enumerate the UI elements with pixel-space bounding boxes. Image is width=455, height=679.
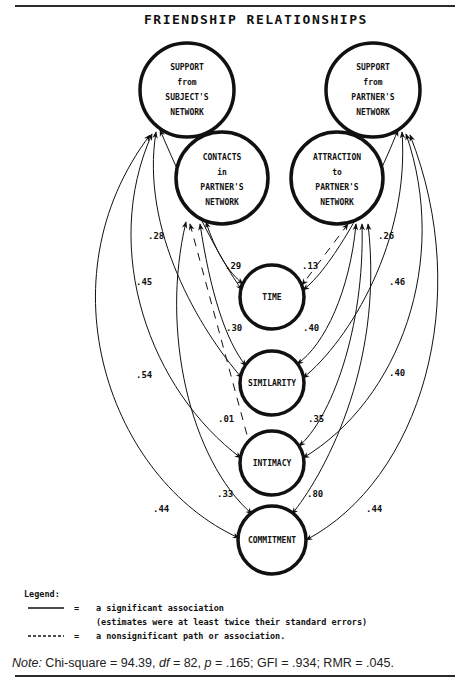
coef-subject-similarity: .45 <box>136 277 152 287</box>
legend-dashed-row: = a nonsignificant path or association. <box>24 629 367 643</box>
coef-partner-time: .26 <box>378 231 394 241</box>
node-similarity: SIMILARITY <box>240 351 304 415</box>
svg-text:COMMITMENT: COMMITMENT <box>248 536 296 545</box>
path-diagram: SUPPORT from SUBJECT'S NETWORK SUPPORT f… <box>0 0 455 600</box>
coef-contacts-commitment: .33 <box>217 489 233 499</box>
svg-text:TIME: TIME <box>262 293 281 302</box>
node-attraction-partner: ATTRACTION to PARTNER'S NETWORK <box>291 132 383 224</box>
svg-text:PARTNER'S: PARTNER'S <box>351 93 395 102</box>
node-time: TIME <box>240 265 304 329</box>
svg-text:to: to <box>332 168 342 177</box>
legend-solid-label: a significant association <box>96 601 224 615</box>
coef-partner-commitment: .44 <box>366 504 383 514</box>
svg-text:from: from <box>363 78 382 87</box>
svg-text:NETWORK: NETWORK <box>356 108 390 117</box>
path-contacts-time <box>206 222 243 284</box>
coef-contacts-time: .29 <box>225 261 241 271</box>
node-support-partner: SUPPORT from PARTNER'S NETWORK <box>326 43 420 137</box>
svg-text:PARTNER'S: PARTNER'S <box>315 183 359 192</box>
legend-dashed-label: a nonsignificant path or association. <box>96 629 285 643</box>
legend: Legend: = a significant association (est… <box>24 587 367 643</box>
solid-line-sample-icon <box>24 605 66 611</box>
node-intimacy: INTIMACY <box>240 431 304 495</box>
coef-contacts-intimacy: .01 <box>218 414 234 424</box>
coef-contacts-similarity: .30 <box>226 323 242 333</box>
coef-attraction-time: .13 <box>302 261 318 271</box>
svg-text:ATTRACTION: ATTRACTION <box>313 153 361 162</box>
svg-text:NETWORK: NETWORK <box>320 198 354 207</box>
coef-attraction-commitment: .80 <box>307 489 323 499</box>
coef-partner-intimacy: .40 <box>389 368 405 378</box>
node-support-subject: SUPPORT from SUBJECT'S NETWORK <box>140 43 234 137</box>
svg-text:SUBJECT'S: SUBJECT'S <box>165 93 209 102</box>
bottom-rule <box>15 675 455 677</box>
svg-text:CONTACTS: CONTACTS <box>203 153 242 162</box>
fit-note: Note: Chi-square = 94.39, df = 82, p = .… <box>12 656 394 670</box>
coef-subject-commitment: .44 <box>153 504 170 514</box>
svg-text:NETWORK: NETWORK <box>205 198 239 207</box>
path-attraction-similarity <box>297 224 356 364</box>
svg-text:SIMILARITY: SIMILARITY <box>248 379 296 388</box>
node-contacts-partner: CONTACTS in PARTNER'S NETWORK <box>176 132 268 224</box>
path-attraction-time <box>302 224 348 285</box>
legend-solid-row: = a significant association <box>24 601 367 615</box>
legend-heading: Legend: <box>24 587 367 601</box>
path-attraction-intimacy <box>299 224 362 446</box>
svg-text:PARTNER'S: PARTNER'S <box>200 183 244 192</box>
svg-text:in: in <box>217 167 227 177</box>
coef-attraction-similarity: .40 <box>303 323 319 333</box>
svg-text:SUPPORT: SUPPORT <box>356 63 390 72</box>
coef-subject-intimacy: .54 <box>136 370 153 380</box>
coef-subject-time: .28 <box>148 231 164 241</box>
coef-partner-similarity: .46 <box>389 277 405 287</box>
node-commitment: COMMITMENT <box>238 506 306 574</box>
coef-attraction-intimacy: .35 <box>308 414 324 424</box>
svg-text:from: from <box>177 78 196 87</box>
svg-text:SUPPORT: SUPPORT <box>170 63 204 72</box>
path-contacts-intimacy <box>190 224 250 446</box>
dashed-line-sample-icon <box>24 633 66 639</box>
svg-text:NETWORK: NETWORK <box>170 108 204 117</box>
svg-text:INTIMACY: INTIMACY <box>253 459 292 468</box>
legend-solid-sub: (estimates were at least twice their sta… <box>24 615 367 629</box>
